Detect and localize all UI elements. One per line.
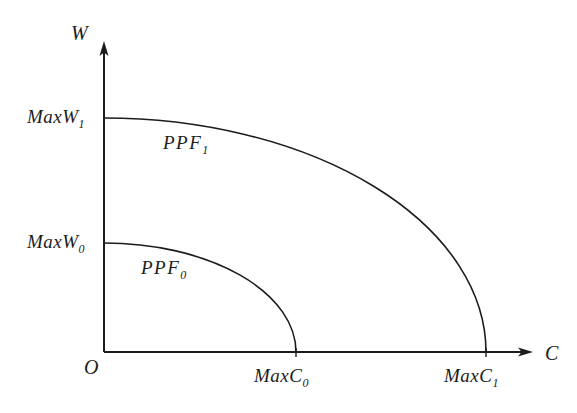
max-c1-label: MaxC1: [444, 366, 498, 389]
ppf0-label: PPF0: [141, 258, 186, 281]
max-w1-base: MaxW: [27, 106, 79, 127]
ppf1-curve: [104, 118, 486, 352]
max-w0-subscript: 0: [79, 242, 85, 256]
max-w1-label: MaxW1: [27, 107, 85, 130]
max-w0-label: MaxW0: [27, 232, 85, 255]
max-c0-label: MaxC0: [254, 366, 308, 389]
ppf1-subscript: 1: [202, 143, 208, 157]
ppf0-base: PPF: [141, 257, 180, 278]
origin-label: O: [84, 357, 99, 377]
ppf-diagram: W C O MaxW1 MaxW0 MaxC0 MaxC1 PPF1 PPF0: [0, 0, 577, 413]
max-w0-base: MaxW: [27, 231, 79, 252]
ppf1-label: PPF1: [163, 133, 208, 156]
ppf1-base: PPF: [163, 132, 202, 153]
x-axis-label: C: [545, 343, 559, 363]
max-w1-subscript: 1: [79, 117, 85, 131]
ppf0-subscript: 0: [180, 268, 186, 282]
max-c0-subscript: 0: [302, 376, 308, 390]
ppf0-curve: [104, 243, 296, 352]
ppf-chart-canvas: [0, 0, 577, 413]
max-c0-base: MaxC: [254, 365, 302, 386]
y-axis-label: W: [71, 23, 88, 43]
max-c1-subscript: 1: [492, 376, 498, 390]
max-c1-base: MaxC: [444, 365, 492, 386]
